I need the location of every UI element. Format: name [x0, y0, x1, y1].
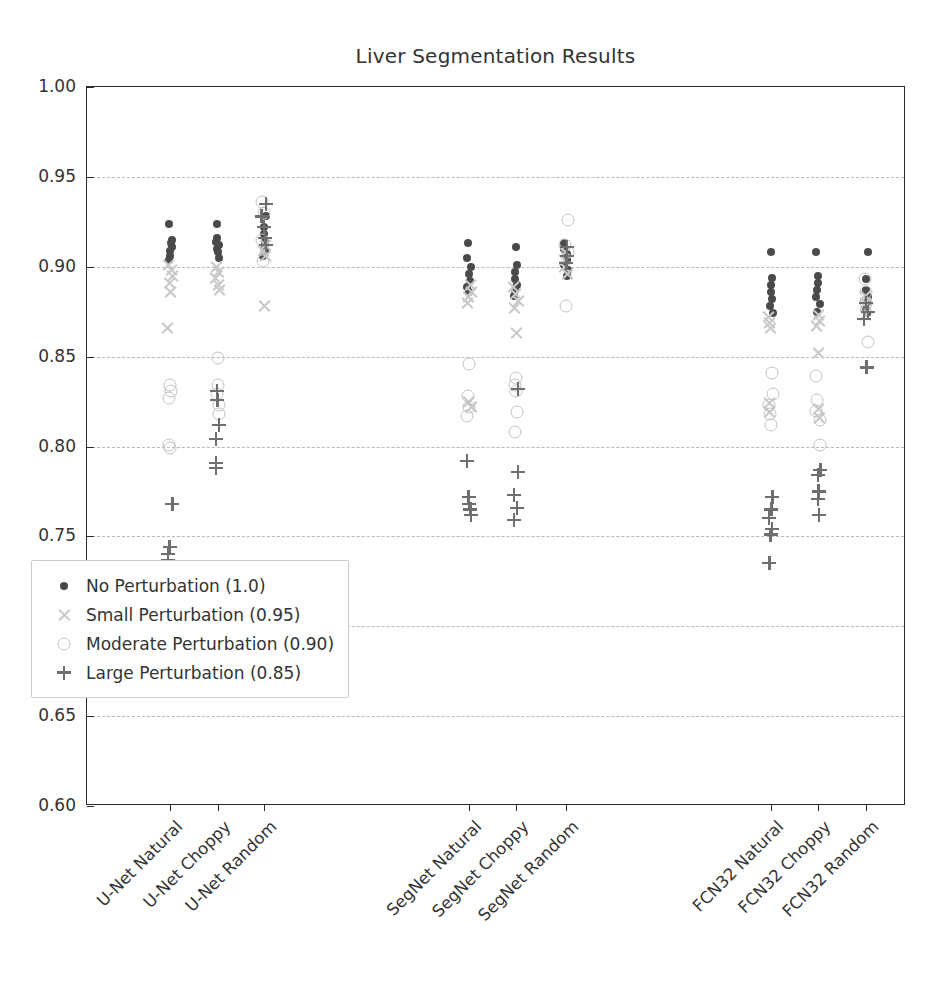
- data-point-x: [507, 300, 523, 316]
- data-point-circle: [559, 300, 572, 313]
- data-point-x: [210, 277, 226, 293]
- data-point-circle: [461, 409, 474, 422]
- data-point-dot: [768, 274, 776, 282]
- data-point-circle: [862, 336, 875, 349]
- data-point-plus: [856, 311, 872, 327]
- data-point-plus: [208, 460, 224, 476]
- data-point-x: [164, 268, 180, 284]
- data-point-x: [860, 300, 876, 316]
- data-point-x: [510, 293, 526, 309]
- data-point-dot: [862, 275, 870, 283]
- gridline: [87, 357, 904, 358]
- data-point-circle: [462, 400, 475, 413]
- y-tick-label: 1.00: [14, 76, 76, 96]
- data-point-plus: [162, 539, 178, 555]
- data-point-x: [811, 307, 827, 323]
- data-point-circle: [813, 413, 826, 426]
- data-point-plus: [763, 527, 779, 543]
- y-tick-label: 0.80: [14, 436, 76, 456]
- data-point-dot: [214, 248, 222, 256]
- data-point-dot: [563, 250, 571, 258]
- data-point-x: [762, 314, 778, 330]
- data-point-plus: [811, 483, 827, 499]
- data-point-dot: [215, 241, 223, 249]
- data-point-dot: [511, 275, 519, 283]
- data-point-plus: [510, 381, 526, 397]
- data-point-dot: [260, 223, 268, 231]
- data-point-dot: [863, 299, 871, 307]
- y-tick-mark: [87, 716, 94, 717]
- data-point-circle: [810, 404, 823, 417]
- data-point-dot: [813, 286, 821, 294]
- data-point-dot: [511, 286, 519, 294]
- data-point-circle: [510, 406, 523, 419]
- data-point-dot: [563, 256, 571, 264]
- data-point-x: [463, 277, 479, 293]
- data-point-dot: [166, 247, 174, 255]
- data-point-x: [761, 395, 777, 411]
- data-point-plus: [506, 487, 522, 503]
- data-point-dot: [168, 243, 176, 251]
- data-point-dot: [213, 234, 221, 242]
- data-point-circle: [462, 357, 475, 370]
- data-point-x: [463, 399, 479, 415]
- data-point-plus: [761, 555, 777, 571]
- data-point-dot: [465, 270, 473, 278]
- data-point-x: [811, 313, 827, 329]
- data-point-dot: [511, 268, 519, 276]
- data-point-circle: [859, 273, 872, 286]
- data-point-x: [857, 295, 873, 311]
- data-point-x: [762, 404, 778, 420]
- gridline: [87, 536, 904, 537]
- y-tick-label: 0.65: [14, 705, 76, 725]
- data-point-dot: [563, 272, 571, 280]
- y-tick-mark: [87, 267, 94, 268]
- data-point-plus: [164, 496, 180, 512]
- data-point-plus: [258, 196, 274, 212]
- data-point-plus: [254, 208, 270, 224]
- data-point-circle: [164, 384, 177, 397]
- data-point-dot: [768, 295, 776, 303]
- data-point-plus: [208, 431, 224, 447]
- data-point-dot: [766, 302, 774, 310]
- x-tick-mark: [264, 804, 265, 811]
- y-tick-label: 0.75: [14, 525, 76, 545]
- x-tick-mark: [218, 804, 219, 811]
- data-point-circle: [163, 438, 176, 451]
- data-point-x: [164, 262, 180, 278]
- x-tick-mark: [469, 804, 470, 811]
- data-point-circle: [860, 285, 873, 298]
- data-point-plus: [764, 489, 780, 505]
- data-point-x: [509, 325, 525, 341]
- data-point-plus: [209, 392, 225, 408]
- data-point-dot: [767, 288, 775, 296]
- data-point-plus: [858, 295, 874, 311]
- data-point-x: [460, 289, 476, 305]
- data-point-plus: [258, 237, 274, 253]
- gridline: [87, 716, 904, 717]
- y-tick-mark: [87, 87, 94, 88]
- data-point-x: [858, 288, 874, 304]
- data-point-plus: [812, 462, 828, 478]
- data-point-circle: [764, 408, 777, 421]
- data-point-dot: [166, 252, 174, 260]
- y-tick-label: 0.85: [14, 346, 76, 366]
- data-point-x: [162, 284, 178, 300]
- data-point-circle: [811, 393, 824, 406]
- data-point-circle: [256, 233, 269, 246]
- data-point-circle: [813, 438, 826, 451]
- gridline: [87, 177, 904, 178]
- data-point-plus: [209, 383, 225, 399]
- data-point-x: [811, 410, 827, 426]
- data-point-circle: [461, 390, 474, 403]
- legend-item: Small Perturbation (0.95): [42, 600, 334, 629]
- data-point-x: [506, 279, 522, 295]
- y-tick-label: 0.60: [14, 795, 76, 815]
- x-icon: [56, 607, 72, 623]
- data-point-x: [560, 266, 576, 282]
- data-point-x: [208, 270, 224, 286]
- data-point-dot: [464, 239, 472, 247]
- data-point-dot: [261, 247, 269, 255]
- plus-icon: [56, 665, 72, 681]
- data-point-circle: [859, 296, 872, 309]
